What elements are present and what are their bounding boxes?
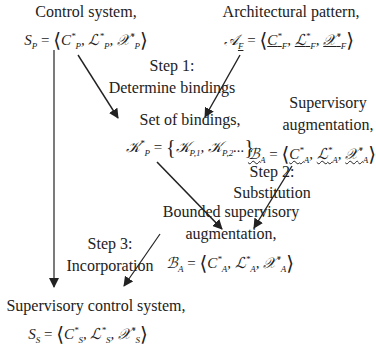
- set-of-bindings-label: Set of bindings,: [140, 111, 241, 129]
- supervisory-augmentation-label-1: Supervisory: [289, 94, 366, 112]
- step2-title: Step 2:: [250, 163, 295, 181]
- bounded-augmentation-label-2: augmentation,: [185, 225, 276, 243]
- step1-desc: Determine bindings: [109, 79, 236, 97]
- supervisory-control-system-formula: SS = ⟨C*S, ℒ*S, 𝒳*S⟩: [28, 321, 148, 348]
- step3-desc: Incorporation: [66, 257, 153, 275]
- step1-title: Step 1:: [150, 57, 195, 75]
- step2-desc: Substitution: [233, 184, 310, 202]
- control-system-label: Control system,: [35, 3, 136, 21]
- architectural-pattern-label: Architectural pattern,: [223, 3, 360, 21]
- supervisory-augmentation-label-2: augmentation,: [282, 116, 373, 134]
- supervisory-control-system-label: Supervisory control system,: [6, 297, 185, 315]
- bounded-augmentation-label-1: Bounded supervisory: [163, 203, 299, 221]
- control-system-formula: SP = ⟨C*P, ℒ*P, 𝒳*P⟩: [24, 27, 148, 55]
- bounded-augmentation-formula: ℬA = ⟨C*A, ℒ*A, 𝒳*A⟩: [166, 250, 294, 278]
- set-of-bindings-formula: 𝒦*P = {𝒦P,1, 𝒦P,2...}: [126, 134, 254, 162]
- step3-title: Step 3:: [88, 235, 133, 253]
- architectural-pattern-formula: 𝒜F = ⟨C*F, ℒ*F, 𝒳*F⟩: [224, 27, 354, 55]
